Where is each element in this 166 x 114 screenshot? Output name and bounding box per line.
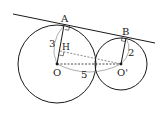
label-radius-3: 3: [49, 38, 55, 49]
label-A: A: [60, 13, 69, 24]
arc-distance-5: [57, 64, 121, 72]
label-distance-5: 5: [81, 69, 87, 80]
label-O: O: [53, 67, 61, 78]
label-H: H: [62, 42, 70, 52]
label-O-prime: O': [117, 67, 128, 78]
right-angle-B: [121, 37, 125, 42]
segment-OprimeB: [121, 38, 126, 64]
point-O: [56, 63, 59, 66]
label-B: B: [122, 26, 129, 37]
point-O-prime: [120, 63, 123, 66]
common-tangent-line: [13, 14, 155, 43]
segment-HOprime-dashed: [60, 51, 121, 64]
label-radius-2: 2: [128, 47, 134, 58]
tangent-circles-diagram: A B H O O' 3 2 5: [0, 0, 166, 114]
right-angle-H: [59, 52, 64, 56]
